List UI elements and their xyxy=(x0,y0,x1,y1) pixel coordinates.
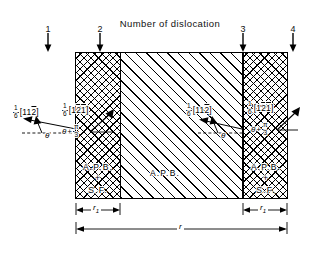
angle-theta-right-outer: θ xyxy=(221,131,225,140)
fraction-pi-over-3-left: π 3 xyxy=(73,124,80,138)
fraction-one-sixth-inner-right: 1 6 xyxy=(186,103,192,117)
region-label-right: A.P.B. + S.F. xyxy=(244,162,288,196)
dimension-label-total: r xyxy=(177,222,184,231)
angle-theta-plus-pi-over-3-left: θ + π 3 xyxy=(62,124,81,138)
burgers-vector-outer-right: 1 6 [121] xyxy=(247,92,274,115)
fraction-pi-over-3-right: π 3 xyxy=(262,122,269,136)
region-label-left: A.P.B. + S.F. xyxy=(76,162,120,196)
dimension-label-left: r1 xyxy=(91,203,101,214)
fraction-one-sixth-outer-right: 1 6 xyxy=(247,101,253,115)
dislocation-diagram: Number of dislocation 1 2 3 4 A.P.B. + S… xyxy=(0,0,312,262)
slip-vector-arrow-right-outer xyxy=(196,112,244,146)
dislocation-arrow-2 xyxy=(93,33,107,53)
slip-vector-arrow-left-inner xyxy=(82,106,116,136)
vector-indices-outer-right: [121] xyxy=(254,103,274,113)
angle-theta-left-outer: θ xyxy=(45,131,49,140)
figure-title: Number of dislocation xyxy=(95,18,245,29)
region-label-center: A.P.B. xyxy=(140,168,190,178)
dislocation-arrow-4 xyxy=(286,33,300,53)
slip-vector-arrow-right-inner xyxy=(272,104,302,134)
angle-theta-plus-pi-over-3-right: θ + π 3 xyxy=(251,122,270,136)
dimension-label-right: r1 xyxy=(258,203,268,214)
dislocation-arrow-3 xyxy=(236,33,250,53)
dislocation-arrow-1 xyxy=(41,33,55,53)
